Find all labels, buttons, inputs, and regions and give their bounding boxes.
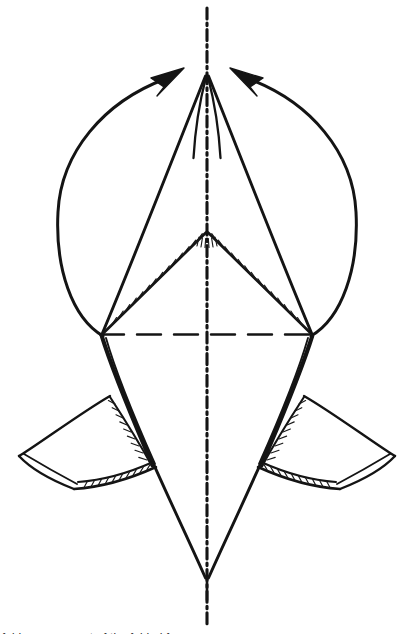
clipped-caption: foldng movement of the folded form: [0, 618, 408, 634]
technical-line-drawing: [0, 0, 408, 634]
figure-container: foldng movement of the folded form: [0, 0, 408, 634]
drawing-background: [0, 0, 408, 634]
